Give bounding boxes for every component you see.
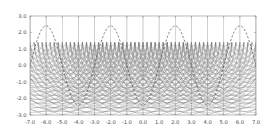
y-tick-label: 2.0 xyxy=(18,29,26,35)
x-tick-label: -2.0 xyxy=(106,119,116,125)
y-tick-label: 0.0 xyxy=(18,62,26,68)
y-tick-label: -1.0 xyxy=(16,79,26,85)
x-tick-label: 2.0 xyxy=(171,119,179,125)
y-tick-label: 3.0 xyxy=(18,13,26,19)
x-tick-label: 7.0 xyxy=(252,119,260,125)
x-tick-label: -6.0 xyxy=(41,119,51,125)
y-tick-label: -3.0 xyxy=(16,112,26,118)
x-tick-label: 6.0 xyxy=(236,119,244,125)
x-tick-label: -1.0 xyxy=(122,119,132,125)
x-tick-label: -5.0 xyxy=(57,119,67,125)
chart-figure: -3.0-2.0-1.00.01.02.03.0 -7.0-6.0-5.0-4.… xyxy=(0,0,266,137)
y-tick-label: 1.0 xyxy=(18,46,26,52)
x-tick-label: 4.0 xyxy=(203,119,211,125)
chart-plot-area: -3.0-2.0-1.00.01.02.03.0 -7.0-6.0-5.0-4.… xyxy=(0,0,266,137)
x-tick-label: 0.0 xyxy=(139,119,147,125)
x-tick-label: -3.0 xyxy=(90,119,100,125)
x-tick-label: -7.0 xyxy=(25,119,35,125)
x-tick-labels-group: -7.0-6.0-5.0-4.0-3.0-2.0-1.00.01.02.03.0… xyxy=(25,119,260,125)
x-tick-label: -4.0 xyxy=(73,119,83,125)
x-tick-label: 1.0 xyxy=(155,119,163,125)
x-tick-label: 5.0 xyxy=(220,119,228,125)
x-tick-label: 3.0 xyxy=(187,119,195,125)
y-tick-label: -2.0 xyxy=(16,95,26,101)
